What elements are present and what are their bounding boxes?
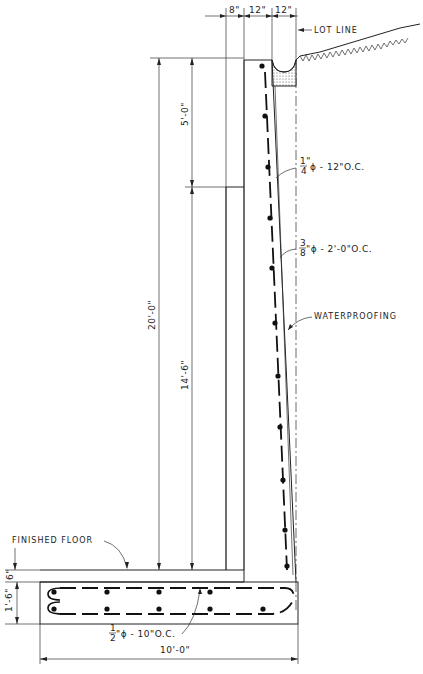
callout-vertical-rebar: 1" 4 ϕ - 12"O.C. (276, 156, 365, 178)
footing-rebar-label: "ϕ - 10"O.C. (116, 629, 175, 639)
retaining-wall-drawing: 8" 12" 12" LOT LINE (0, 0, 423, 674)
callout-horizontal-rebar: 3 8 "ϕ - 2'-0"O.C. (280, 238, 372, 258)
lot-line-callout: LOT LINE (298, 26, 358, 35)
dim-10ft: 10'-0" (160, 645, 190, 655)
dim-8in: 8" (229, 5, 240, 15)
dim-12in-b: 12" (275, 5, 292, 15)
callout-finished-floor: FINISHED FLOOR (12, 536, 129, 569)
rebar-horizontal-label: "ϕ - 2'-0"O.C. (306, 244, 372, 254)
finished-floor-label: FINISHED FLOOR (12, 536, 93, 545)
dim-6in: 6" (5, 569, 15, 580)
callout-waterproofing: WATERPROOFING (288, 312, 397, 330)
dim-5ft: 5'-0" (180, 102, 190, 126)
floor-slab (40, 187, 244, 582)
footing-rebar (48, 588, 294, 614)
callout-footing-rebar: 1 2 "ϕ - 10"O.C. (109, 588, 202, 643)
rebar-vertical-label: ϕ - 12"O.C. (310, 162, 365, 172)
svg-text:4: 4 (301, 166, 307, 176)
waterproofing-label: WATERPROOFING (314, 312, 397, 321)
dim-20ft: 20'-0" (147, 300, 157, 330)
top-dimension-group: 8" 12" 12" (205, 5, 298, 570)
lot-line-label: LOT LINE (314, 26, 358, 35)
dim-14ft6: 14'-6" (180, 360, 190, 390)
wall-stem (244, 60, 296, 582)
dim-1ft6: 1'-6" (4, 588, 14, 612)
dim-12in-a: 12" (249, 5, 266, 15)
drain-gutter (272, 60, 296, 86)
wall-horizontal-rebar-dots (259, 63, 289, 568)
